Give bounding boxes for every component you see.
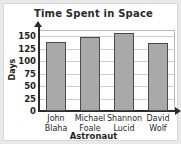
x-axis-category-line: John	[39, 114, 73, 124]
y-axis-title: Days	[8, 53, 17, 87]
y-axis-line	[38, 25, 40, 112]
gridline	[39, 36, 174, 37]
y-axis-arrow-icon	[34, 21, 42, 27]
x-axis-category-line: David	[141, 114, 175, 124]
y-axis-tick-label: 125	[6, 45, 36, 53]
y-axis-tick-label: 150	[6, 32, 36, 40]
bar	[148, 43, 168, 111]
x-axis-category-line: Michael	[73, 114, 107, 124]
y-axis-tick-label: 0	[6, 107, 36, 115]
x-axis-title: Astronaut	[3, 131, 181, 141]
y-axis-tick-label: 25	[6, 95, 36, 103]
chart-figure: Time Spent in Space 1501251007550250 Day…	[0, 0, 181, 144]
bar	[80, 37, 100, 111]
x-axis-category-line: Shannon	[107, 114, 141, 124]
bar	[46, 42, 66, 111]
bar	[114, 33, 134, 112]
